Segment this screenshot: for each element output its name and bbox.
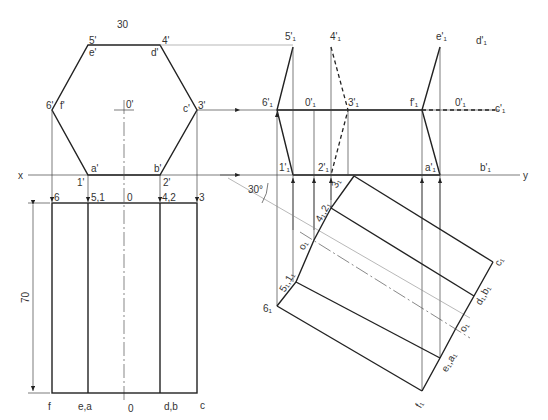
x-axis-label: x (18, 170, 23, 181)
tilted-edge (331, 208, 474, 296)
orthographic-drawing: 30 70 30° x y 5' 4' 3' 2' 1' 6' e' d' c'… (0, 0, 548, 420)
label-1p: 1' (77, 177, 85, 188)
label-6p: 6' (46, 100, 54, 111)
tilted-edge (296, 282, 440, 358)
top-view-rectangle (52, 203, 197, 393)
label-6-1: 6₁ (263, 303, 273, 314)
aux-right-profile (422, 47, 440, 175)
angle-label: 30° (248, 184, 263, 195)
label-bp1: b'₁ (480, 162, 491, 173)
tilted-edge (277, 306, 422, 391)
drawing-canvas: 30 70 30° x y 5' 4' 3' 2' 1' 6' e' d' c'… (0, 0, 548, 420)
label-3p1: 3'₁ (348, 97, 359, 108)
label-0p1: 0'₁ (305, 97, 316, 108)
label-dp1: d'₁ (476, 35, 487, 46)
dim-30-label: 30 (117, 19, 129, 30)
label-3: 3 (199, 192, 205, 203)
label-c1: c₁ (492, 254, 506, 267)
label-ep1: e'₁ (436, 31, 447, 42)
label-cp1: c'₁ (495, 103, 506, 114)
label-4p: 4' (162, 35, 170, 46)
label-bp: b' (154, 163, 162, 174)
dim-70-label: 70 (20, 291, 31, 303)
label-o1: o₁ (296, 238, 310, 252)
label-d1-b1: d₁,b₁ (473, 283, 493, 307)
label-6p1: 6'₁ (262, 97, 273, 108)
label-4-2: 4,2 (162, 192, 176, 203)
label-4p1: 4'₁ (330, 31, 341, 42)
label-1p1: 1'₁ (279, 162, 290, 173)
label-2p: 2' (163, 177, 171, 188)
label-fp: f' (60, 100, 65, 111)
label-ap1: a'₁ (425, 162, 436, 173)
aux-left-profile (277, 47, 293, 175)
label-0p1-right: 0'₁ (455, 97, 466, 108)
label-4-1-2-1: 4₁,2₁ (313, 200, 333, 224)
label-cp: c' (183, 103, 190, 114)
label-5p1: 5'₁ (285, 31, 296, 42)
tilted-edge (354, 176, 493, 262)
label-d-b: d,b (164, 401, 178, 412)
label-fp1: f'₁ (410, 97, 419, 108)
label-6: 6 (54, 192, 60, 203)
label-0p: 0' (126, 99, 134, 110)
label-3p: 3' (198, 100, 206, 111)
label-5p: 5' (89, 35, 97, 46)
label-0: 0 (127, 192, 133, 203)
label-ap: a' (91, 163, 99, 174)
tilted-center-line (300, 232, 470, 338)
label-f: f (48, 401, 51, 412)
label-5-1: 5,1 (91, 192, 105, 203)
label-e-a: e,a (78, 401, 92, 412)
y-axis-label: y (523, 170, 528, 181)
label-c: c (200, 400, 205, 411)
label-0-bottom: 0 (128, 403, 134, 414)
label-5-1-1-1: 5₁,1₁ (277, 270, 297, 294)
label-ep: e' (89, 47, 97, 58)
label-dp: d' (151, 47, 159, 58)
label-2p1: 2'₁ (318, 162, 329, 173)
aux-hidden-profile (331, 47, 348, 175)
label-f1: f₁ (413, 398, 426, 409)
